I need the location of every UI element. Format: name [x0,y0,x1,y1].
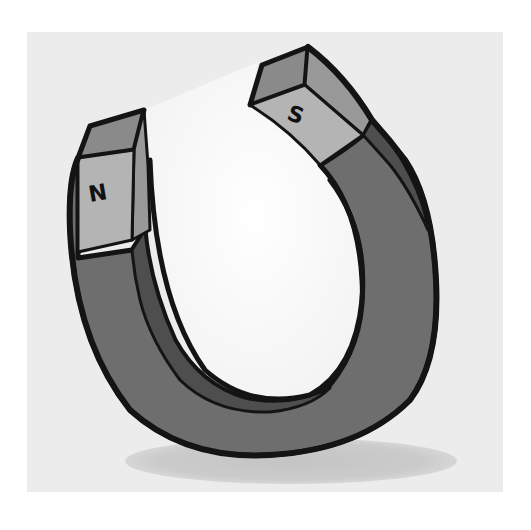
north-pole: N [78,110,150,252]
magnet-illustration: N S [0,0,531,530]
